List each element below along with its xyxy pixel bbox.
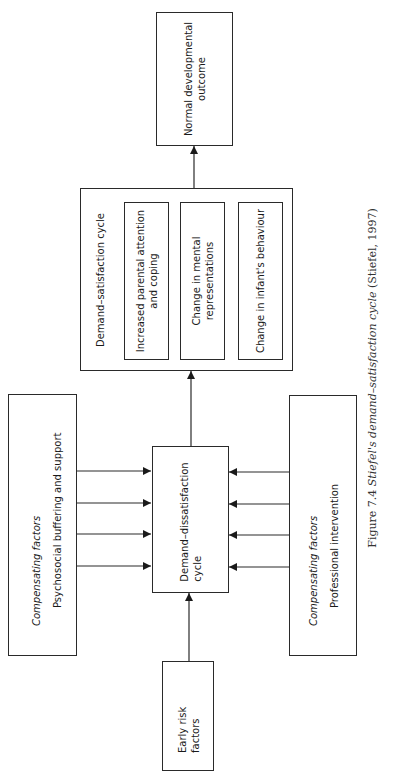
figure-caption: Figure 7.4 Stiefel's demand–satisfaction… (366, 208, 379, 547)
compensating-right-heading: Compensating factors (308, 484, 321, 626)
dissatisfaction-line1: Demand–dissatisfaction (178, 463, 191, 582)
dissatisfaction-line2: cycle (191, 463, 204, 582)
compensating-right-box: Compensating factors Professional interv… (289, 395, 357, 656)
outcome-line2: outcome (195, 22, 208, 136)
satisfaction-cycle-box: Demand–satisfaction cycle Increased pare… (80, 188, 293, 371)
compensating-right-text: Compensating factors Professional interv… (308, 484, 341, 626)
item-2-line2: representations (203, 237, 216, 326)
dissatisfaction-cycle-box: Demand–dissatisfaction cycle (152, 446, 229, 593)
caption-citation: (Stiefel, 1997) (366, 208, 379, 291)
caption-prefix: Figure 7.4 (366, 486, 379, 548)
caption-title: Stiefel's demand–satisfaction cycle (366, 291, 379, 486)
compensating-right-label: Professional intervention (329, 484, 342, 626)
item-3-line1: Change in infant's behaviour (254, 209, 267, 353)
satisfaction-item-parental-attention: Increased parental attention and coping (124, 202, 169, 360)
satisfaction-cycle-title: Demand–satisfaction cycle (95, 213, 108, 347)
outcome-label: Normal developmental outcome (182, 22, 207, 136)
early-risk-line2: factors (190, 707, 203, 753)
outcome-box: Normal developmental outcome (156, 12, 233, 146)
outcome-line1: Normal developmental (182, 22, 195, 136)
early-risk-line1: Early risk (177, 707, 190, 753)
early-risk-box: Early risk factors (162, 661, 214, 771)
compensating-left-label: Psychosocial buffering and support (52, 433, 65, 627)
compensating-left-text: Compensating factors Psychosocial buffer… (31, 433, 64, 627)
compensating-left-heading: Compensating factors (31, 433, 44, 627)
compensating-left-box: Compensating factors Psychosocial buffer… (8, 394, 77, 656)
satisfaction-item-infant-behaviour: Change in infant's behaviour (238, 202, 283, 360)
satisfaction-item-mental-representations: Change in mental representations (180, 202, 225, 360)
early-risk-label: Early risk factors (177, 707, 202, 753)
item-1-line2: and coping (147, 210, 160, 352)
item-1-line1: Increased parental attention (134, 210, 147, 352)
dissatisfaction-label: Demand–dissatisfaction cycle (178, 463, 203, 582)
item-2-line1: Change in mental (190, 237, 203, 326)
